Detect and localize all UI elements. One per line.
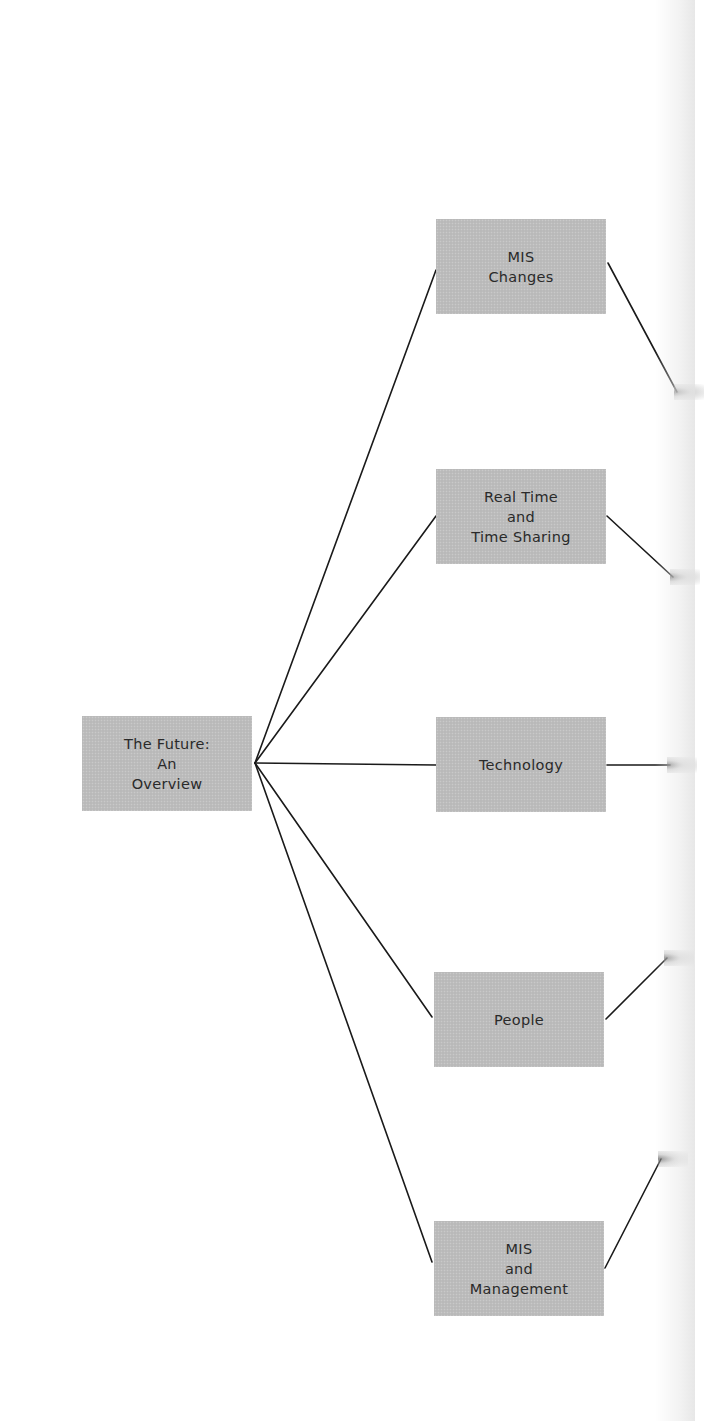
edge-root-technology — [255, 763, 436, 765]
node-label-line: and — [505, 1259, 533, 1279]
edge-root-mis-management — [255, 763, 432, 1262]
node-label-line: Technology — [479, 755, 563, 775]
root-node-line: An — [157, 754, 177, 774]
root-node-line: Overview — [132, 774, 203, 794]
page-fold-shadow — [658, 1151, 688, 1167]
node-real-time: Real Time and Time Sharing — [436, 469, 606, 564]
node-label-line: Real Time — [484, 487, 558, 507]
node-label-line: People — [494, 1010, 544, 1030]
node-label-line: MIS — [508, 247, 535, 267]
root-node: The Future: An Overview — [82, 716, 252, 811]
node-technology: Technology — [436, 717, 606, 812]
page-fold-shadow — [670, 569, 700, 585]
edge-root-mis-changes — [255, 270, 436, 763]
node-label-line: Changes — [488, 267, 553, 287]
node-mis-management: MIS and Management — [434, 1221, 604, 1316]
edge-root-real-time — [255, 516, 436, 763]
node-label-line: and — [507, 507, 535, 527]
edge-out-mis-management — [605, 1159, 661, 1268]
edge-root-people — [255, 763, 432, 1017]
page-fold-shadow — [674, 384, 704, 400]
root-node-line: The Future: — [124, 734, 210, 754]
node-people: People — [434, 972, 604, 1067]
node-mis-changes: MIS Changes — [436, 219, 606, 314]
page-fold-shadow — [664, 950, 694, 966]
page-fold-shadow — [667, 757, 697, 773]
edge-out-real-time — [607, 516, 673, 577]
node-label-line: Management — [470, 1279, 569, 1299]
node-label-line: Time Sharing — [471, 527, 570, 547]
node-label-line: MIS — [506, 1239, 533, 1259]
edge-out-mis-changes — [608, 263, 677, 392]
edge-out-people — [606, 958, 667, 1019]
